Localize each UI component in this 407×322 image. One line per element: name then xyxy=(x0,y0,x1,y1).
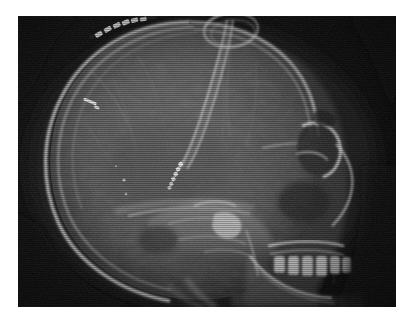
maxillary-sinus xyxy=(278,182,330,222)
image-title: Lateral skull radiograph xyxy=(0,0,1,1)
radiograph-image xyxy=(18,16,396,307)
image-alt-text: Lateral skull radiograph with ventricula… xyxy=(0,0,1,1)
image-caption: Lateral skull X-ray showing a ventricula… xyxy=(0,0,1,1)
radiograph-page: Lateral skull X-ray showing a ventricula… xyxy=(0,0,407,322)
mastoid-air-cells xyxy=(138,226,178,254)
radiograph-plate xyxy=(18,16,396,307)
